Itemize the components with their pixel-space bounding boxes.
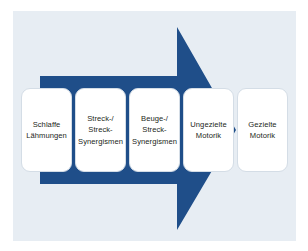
stage-box-1-label: Schlaffe Lähmungen	[26, 119, 67, 142]
stage-box-3[interactable]: Beuge-/ Streck- Synergismen	[129, 88, 180, 172]
stage-box-3-label: Beuge-/ Streck- Synergismen	[132, 113, 177, 147]
diagram-root: Schlaffe Lähmungen Streck-/ Streck- Syne…	[0, 0, 308, 251]
stage-box-2-label: Streck-/ Streck- Synergismen	[78, 113, 123, 147]
stage-box-5-label: Gezielte Motorik	[248, 119, 276, 142]
stage-box-5[interactable]: Gezielte Motorik	[237, 88, 288, 172]
stage-box-4[interactable]: Ungezielte Motorik	[183, 88, 234, 172]
stage-box-4-label: Ungezielte Motorik	[190, 119, 226, 142]
stage-box-1[interactable]: Schlaffe Lähmungen	[21, 88, 72, 172]
stage-box-2[interactable]: Streck-/ Streck- Synergismen	[75, 88, 126, 172]
